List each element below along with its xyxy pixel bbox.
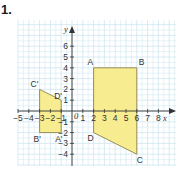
- y-tick-label: −4: [58, 149, 68, 159]
- x-tick-label: 1: [80, 113, 85, 123]
- x-tick-label: 7: [145, 113, 150, 123]
- y-tick-label: 3: [63, 74, 68, 84]
- x-tick-label: 4: [113, 113, 118, 123]
- x-tick-label: 2: [91, 113, 96, 123]
- x-tick-label: 8: [156, 113, 161, 123]
- coordinate-grid: xy0−5−4−3−2−112345678654321−1−2−3−4ABCDA…: [0, 0, 186, 176]
- y-tick-label: 4: [63, 63, 68, 73]
- vertex-label-cp: C': [31, 79, 39, 89]
- y-tick-label: 6: [63, 41, 68, 51]
- vertex-label-ap: A': [55, 134, 63, 144]
- y-axis-label: y: [63, 24, 68, 34]
- x-axis-label: x: [162, 113, 167, 123]
- vertex-label-dp: D': [54, 91, 62, 101]
- x-tick-label: 6: [134, 113, 139, 123]
- x-tick-label: −2: [46, 113, 56, 123]
- y-tick-label: 1: [63, 95, 68, 105]
- x-tick-label: −5: [13, 113, 23, 123]
- x-axis-arrow-icon: [169, 108, 176, 114]
- y-tick-label: 2: [63, 84, 68, 94]
- y-axis-arrow-icon: [69, 26, 75, 33]
- x-tick-label: −3: [35, 113, 45, 123]
- y-tick-label: 5: [63, 52, 68, 62]
- vertex-label-bp: B': [34, 134, 42, 144]
- x-tick-label: 3: [102, 113, 107, 123]
- x-tick-label: 5: [124, 113, 129, 123]
- vertex-label-a: A: [88, 57, 94, 67]
- y-tick-label: −1: [58, 117, 68, 127]
- x-tick-label: −4: [24, 113, 34, 123]
- vertex-label-c: C: [137, 155, 143, 165]
- origin-label: 0: [74, 111, 79, 121]
- vertex-label-d: D: [88, 133, 94, 143]
- vertex-label-b: B: [139, 57, 145, 67]
